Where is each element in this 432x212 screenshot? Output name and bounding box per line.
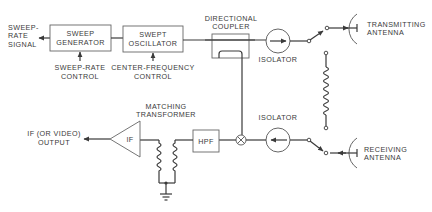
diagram-canvas: SWEEP- RATE SIGNAL SWEEP GENERATOR SWEEP… bbox=[0, 0, 432, 212]
svg-text:ISOLATOR: ISOLATOR bbox=[259, 55, 298, 64]
svg-text:ANTENNA: ANTENNA bbox=[364, 153, 401, 162]
if-amplifier-block: IF bbox=[110, 121, 140, 157]
receiving-antenna-label: RECEIVING ANTENNA bbox=[364, 145, 407, 162]
ground-icon bbox=[160, 194, 172, 200]
directional-coupler-block: DIRECTIONAL COUPLER bbox=[205, 14, 258, 135]
svg-text:OUTPUT: OUTPUT bbox=[38, 138, 70, 147]
svg-text:COUPLER: COUPLER bbox=[212, 22, 250, 31]
switch-linkage-spring bbox=[324, 51, 329, 130]
svg-text:CONTROL: CONTROL bbox=[61, 72, 99, 81]
svg-text:SWEEP-RATE: SWEEP-RATE bbox=[55, 63, 106, 72]
center-frequency-control-label: CENTER-FREQUENCY CONTROL bbox=[111, 63, 194, 81]
isolator-rx: ISOLATOR bbox=[259, 113, 298, 152]
svg-text:ISOLATOR: ISOLATOR bbox=[259, 113, 298, 122]
svg-text:RATE: RATE bbox=[8, 31, 28, 40]
sweep-generator-block: SWEEP GENERATOR bbox=[50, 25, 111, 51]
svg-text:GENERATOR: GENERATOR bbox=[56, 38, 104, 47]
svg-text:HPF: HPF bbox=[198, 137, 214, 146]
svg-text:SIGNAL: SIGNAL bbox=[8, 40, 37, 49]
svg-text:OSCILLATOR: OSCILLATOR bbox=[129, 39, 178, 48]
svg-text:ANTENNA: ANTENNA bbox=[367, 28, 404, 37]
transmitting-antenna-label: TRANSMITTING ANTENNA bbox=[367, 20, 426, 37]
svg-text:CONTROL: CONTROL bbox=[134, 72, 172, 81]
mixer-icon bbox=[236, 135, 246, 145]
tr-switch-rx bbox=[307, 138, 346, 155]
if-output-label: IF (OR VIDEO) OUTPUT bbox=[27, 129, 81, 147]
svg-text:SWEPT: SWEPT bbox=[139, 30, 167, 39]
svg-text:IF: IF bbox=[126, 135, 133, 144]
sweep-rate-control-label: SWEEP-RATE CONTROL bbox=[55, 63, 106, 81]
receiving-antenna-icon bbox=[346, 138, 357, 168]
swept-oscillator-block: SWEPT OSCILLATOR bbox=[123, 26, 183, 52]
isolator-tx: ISOLATOR bbox=[259, 29, 298, 64]
svg-text:TRANSFORMER: TRANSFORMER bbox=[136, 110, 196, 119]
hpf-block: HPF bbox=[193, 130, 219, 152]
sweep-rate-signal-label: SWEEP- RATE SIGNAL bbox=[8, 23, 39, 49]
svg-text:SWEEP: SWEEP bbox=[67, 29, 95, 38]
coupler-tap-line bbox=[219, 51, 242, 135]
svg-text:CENTER-FREQUENCY: CENTER-FREQUENCY bbox=[111, 63, 194, 72]
matching-transformer: MATCHING TRANSFORMER bbox=[136, 102, 196, 194]
transmitting-antenna-icon bbox=[346, 14, 357, 44]
tr-switch-tx bbox=[307, 26, 348, 43]
svg-text:IF (OR VIDEO): IF (OR VIDEO) bbox=[27, 129, 81, 138]
